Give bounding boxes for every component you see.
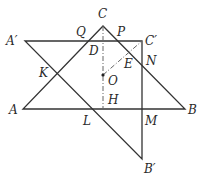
- label-q: Q: [76, 25, 86, 39]
- label-m: M: [144, 114, 158, 128]
- label-e: E: [123, 57, 133, 71]
- label-b: B: [187, 103, 197, 117]
- label-k: K: [38, 66, 49, 80]
- label-l: L: [82, 114, 91, 128]
- label-p: P: [116, 25, 126, 39]
- point-o-dot: [101, 73, 104, 76]
- label-c-prime: C′: [145, 34, 157, 48]
- label-o: O: [108, 74, 118, 88]
- label-a-prime: A′: [5, 34, 18, 48]
- label-d: D: [88, 44, 99, 58]
- label-c: C: [98, 7, 107, 21]
- label-n: N: [145, 54, 157, 68]
- label-h: H: [107, 93, 119, 107]
- geometry-diagram: C A′ Q P C′ D E N K O A H B L M B′: [0, 0, 205, 179]
- label-b-prime: B′: [143, 162, 156, 176]
- label-a: A: [8, 103, 18, 117]
